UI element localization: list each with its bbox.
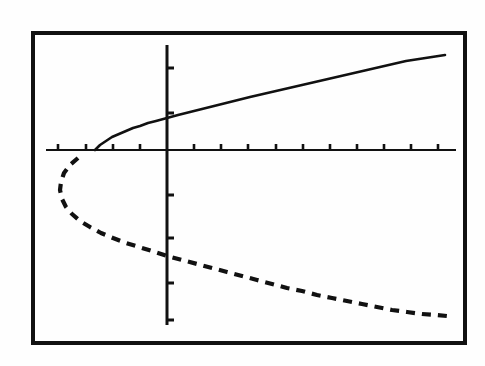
graph-plot-area [0, 0, 485, 366]
graphing-calculator-screenshot [0, 0, 485, 366]
